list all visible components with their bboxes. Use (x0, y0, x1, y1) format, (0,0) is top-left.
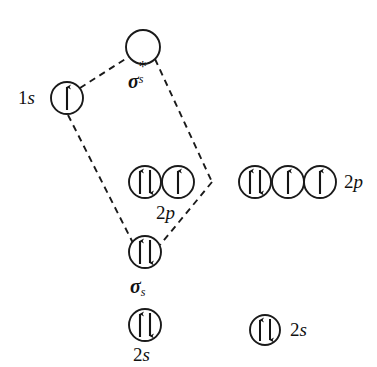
sigma-glyph: σ (128, 70, 139, 92)
label-2s-right: 2s (290, 320, 307, 339)
orbital-right-2p-c (304, 166, 336, 198)
label-2s-right-subshell: s (300, 319, 307, 340)
label-2s-center-subshell: s (143, 344, 150, 365)
orbital-sigma-s (129, 236, 161, 268)
orbital-center-2p-b (162, 166, 194, 198)
mo-diagram: 1s σ*s 2p 2p σs 2s 2s (0, 0, 377, 367)
label-2s-center: 2s (133, 345, 150, 364)
sigma-glyph: σ (130, 275, 141, 297)
label-2p-right-subshell: p (354, 171, 364, 192)
orbital-right-2p-b (272, 166, 304, 198)
subshell-glyph: s (139, 73, 144, 85)
label-2p-center: 2p (156, 203, 175, 222)
label-1s-subshell: s (28, 87, 35, 108)
mo-diagram-canvas (0, 0, 377, 367)
label-2p-center-number: 2 (156, 202, 166, 223)
label-2p-right-number: 2 (344, 171, 354, 192)
label-2p-center-subshell: p (166, 202, 176, 223)
orbital-atom-left-1s (51, 82, 83, 114)
orbital-right-2p-a (239, 166, 271, 198)
label-1s-number: 1 (18, 87, 28, 108)
label-1s: 1s (18, 88, 35, 107)
orbital-center-2s (129, 309, 161, 341)
line-1s-to-sigma-star (80, 56, 130, 88)
orbital-right-2s (250, 315, 280, 345)
line-1s-to-sigma (68, 115, 133, 243)
label-2s-center-number: 2 (133, 344, 143, 365)
sigma-star-sub-sup: *s (139, 68, 148, 88)
line-sigma-star-to-vertex (155, 59, 212, 182)
label-2p-right: 2p (344, 172, 363, 191)
label-sigma-s: σs (130, 276, 145, 298)
subshell-glyph: s (141, 285, 146, 299)
label-2s-right-number: 2 (290, 319, 300, 340)
label-sigma-s-star: σ*s (128, 68, 148, 91)
orbital-center-2p-a (129, 166, 161, 198)
